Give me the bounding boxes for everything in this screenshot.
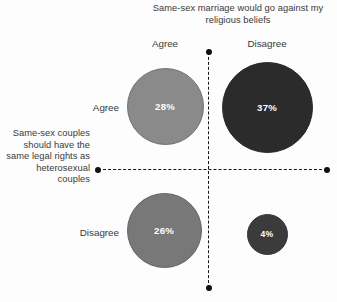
bubble-disagree-agree[interactable]: 26% [127, 193, 202, 268]
bubble-label-disagree-disagree: 4% [261, 229, 274, 239]
axis-endpoint-dot-top [206, 49, 212, 55]
bubble-matrix-chart: Same-sex marriage would go against my re… [0, 0, 337, 302]
vertical-axis-line [208, 52, 209, 288]
column-tick-agree: Agree [130, 38, 200, 49]
bubble-agree-disagree[interactable]: 37% [222, 62, 313, 153]
row-tick-agree: Agree [45, 102, 119, 113]
column-axis-title: Same-sex marriage would go against my re… [148, 3, 328, 26]
bubble-label-agree-disagree: 37% [257, 102, 277, 113]
axis-endpoint-dot-left [95, 167, 101, 173]
bubble-label-disagree-agree: 26% [154, 225, 174, 236]
bubble-label-agree-agree: 28% [155, 101, 175, 112]
bubble-agree-agree[interactable]: 28% [127, 68, 204, 145]
row-axis-title: Same-sex couples should have the same le… [2, 128, 90, 186]
row-tick-disagree: Disagree [45, 227, 119, 238]
column-tick-disagree: Disagree [232, 38, 302, 49]
bubble-disagree-disagree[interactable]: 4% [247, 214, 288, 255]
axis-endpoint-dot-right [324, 167, 330, 173]
axis-endpoint-dot-bottom [206, 285, 212, 291]
horizontal-axis-line [98, 169, 327, 170]
